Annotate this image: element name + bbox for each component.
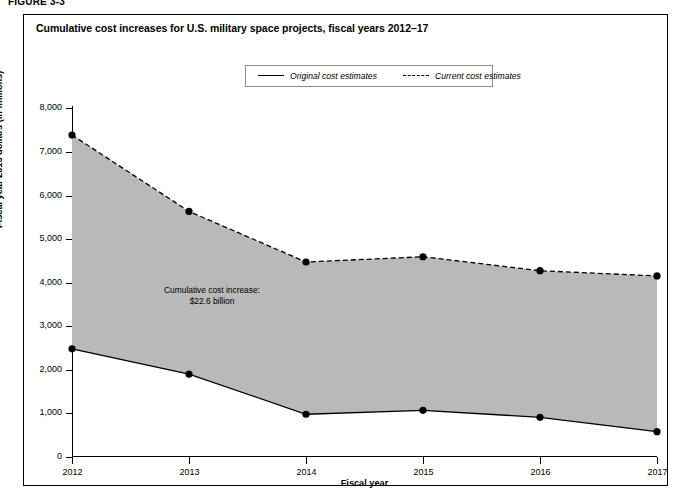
- legend-item-current: Current cost estimates: [403, 71, 521, 81]
- y-tick-label-8000: 8,000: [39, 102, 62, 112]
- y-tick-3000: 3,000: [66, 326, 73, 327]
- x-tick-2013: 2013: [189, 457, 190, 464]
- annotation-line-2: $22.6 billion: [128, 296, 296, 307]
- cumulative-increase-annotation: Cumulative cost increase: $22.6 billion: [128, 285, 296, 307]
- x-axis-title: Fiscal year: [72, 478, 657, 488]
- chart-legend: Original cost estimates Current cost est…: [245, 65, 493, 87]
- y-tick-label-5000: 5,000: [39, 233, 62, 243]
- y-tick-label-7000: 7,000: [39, 146, 62, 156]
- legend-item-current-label: Current cost estimates: [435, 71, 521, 81]
- x-axis-line: [72, 456, 657, 457]
- y-tick-label-0: 0: [57, 451, 62, 461]
- x-tick-label-2013: 2013: [179, 467, 199, 477]
- y-tick-8000: 8,000: [66, 108, 73, 109]
- figure-number-label: FIGURE 3-3: [8, 0, 65, 8]
- x-tick-2014: 2014: [306, 457, 307, 464]
- y-tick-label-6000: 6,000: [39, 190, 62, 200]
- y-tick-label-3000: 3,000: [39, 320, 62, 330]
- x-tick-2012: 2012: [72, 457, 73, 464]
- x-tick-label-2014: 2014: [296, 467, 316, 477]
- x-tick-2017: 2017: [657, 457, 658, 464]
- x-tick-label-2015: 2015: [413, 467, 433, 477]
- y-tick-4000: 4,000: [66, 283, 73, 284]
- x-tick-2015: 2015: [423, 457, 424, 464]
- y-tick-label-4000: 4,000: [39, 277, 62, 287]
- legend-solid-line-icon: [258, 75, 284, 77]
- y-tick-6000: 6,000: [66, 196, 73, 197]
- legend-item-original-label: Original cost estimates: [290, 71, 377, 81]
- y-tick-1000: 1,000: [66, 413, 73, 414]
- legend-item-original: Original cost estimates: [258, 71, 377, 81]
- figure-root: FIGURE 3-3 Cumulative cost increases for…: [0, 0, 678, 494]
- x-tick-2016: 2016: [540, 457, 541, 464]
- y-tick-7000: 7,000: [66, 152, 73, 153]
- y-tick-5000: 5,000: [66, 239, 73, 240]
- y-tick-label-1000: 1,000: [39, 407, 62, 417]
- y-axis-title: Fiscal year 2013 dollars (in millions): [0, 71, 4, 228]
- y-tick-2000: 2,000: [66, 370, 73, 371]
- annotation-line-1: Cumulative cost increase:: [128, 285, 296, 296]
- x-tick-label-2017: 2017: [647, 467, 667, 477]
- y-tick-label-2000: 2,000: [39, 364, 62, 374]
- figure-title: Cumulative cost increases for U.S. milit…: [36, 22, 428, 34]
- x-tick-label-2012: 2012: [62, 467, 82, 477]
- x-tick-label-2016: 2016: [530, 467, 550, 477]
- legend-dashed-line-icon: [403, 75, 429, 77]
